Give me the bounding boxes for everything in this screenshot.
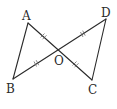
label-a: A bbox=[21, 9, 31, 23]
label-c: C bbox=[88, 83, 97, 97]
geometry-diagram: A D B C O bbox=[0, 0, 117, 109]
label-b: B bbox=[6, 82, 15, 96]
label-o: O bbox=[54, 54, 64, 68]
segment-ac bbox=[28, 23, 92, 80]
segment-dc bbox=[92, 19, 106, 80]
tick-mark-oc bbox=[73, 62, 79, 68]
label-d: D bbox=[101, 6, 111, 20]
